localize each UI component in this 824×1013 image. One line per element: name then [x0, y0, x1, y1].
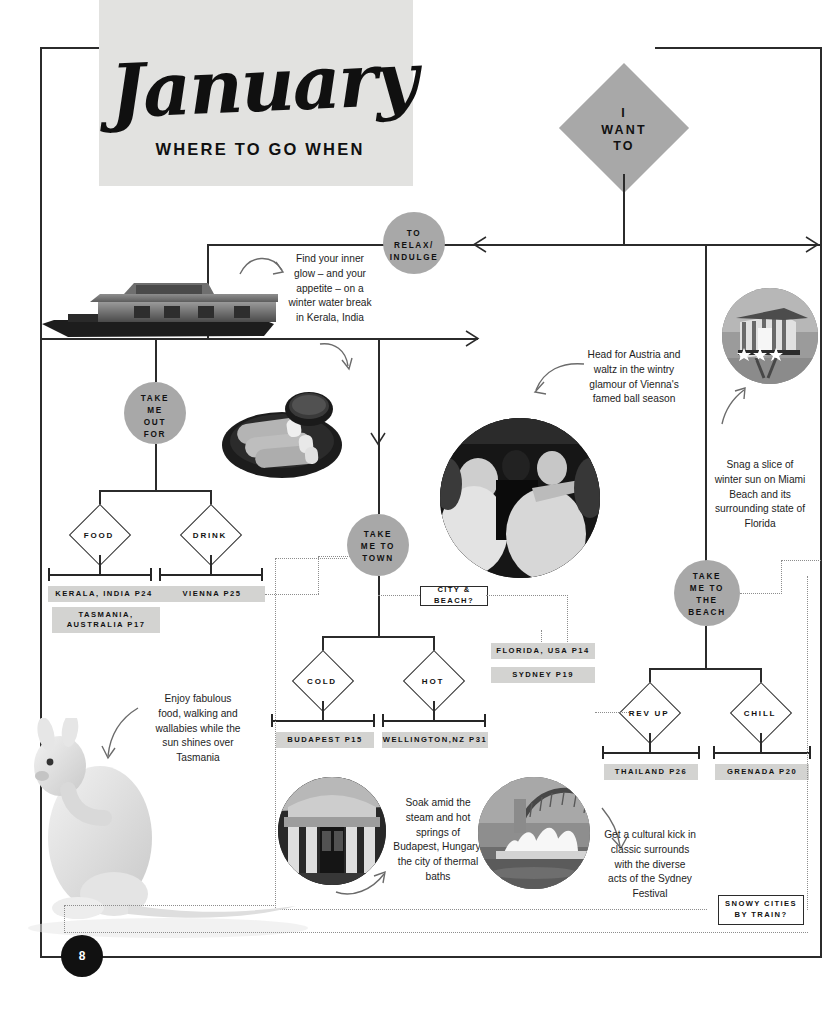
- revup-tbar-cap-right: [698, 746, 700, 759]
- revup-tbar-cap-left: [602, 746, 604, 759]
- hot-tbar-cap-right: [484, 714, 486, 727]
- food-tbar: [48, 574, 152, 576]
- node-take-me-to-town-label: TAKE ME TO TOWN: [345, 529, 411, 565]
- food-tbar-cap-left: [48, 568, 50, 581]
- vienna-ball-dancers-photo: [440, 418, 600, 578]
- dotted-citybeach-right: [486, 595, 568, 596]
- food-stem: [99, 555, 101, 575]
- node-take-me-out-for-label: TAKE ME OUT FOR: [122, 393, 188, 441]
- spine-second-arrow-right: [462, 330, 482, 348]
- dotted-beach-right-up: [781, 560, 782, 594]
- town-label-line1: TAKE: [345, 529, 411, 541]
- hot-tbar-cap-left: [382, 714, 384, 727]
- kerala-houseboat-photo: [38, 280, 278, 342]
- dotted-vienna-up: [318, 556, 319, 594]
- root-node-label: I WANT TO: [576, 105, 672, 155]
- indian-food-plate-photo: [221, 383, 343, 481]
- callout-kerala: Find your inner glow – and your appetite…: [286, 252, 374, 326]
- tag-sydney[interactable]: SYDNEY P19: [491, 667, 595, 683]
- outfor-label-line1: TAKE: [122, 393, 188, 405]
- diamond-food-label: FOOD: [72, 531, 126, 540]
- spine-line-top: [207, 244, 822, 246]
- callout-tasmania: Enjoy fabulous food, walking and wallabi…: [152, 692, 244, 766]
- out-for-stem-bottom: [155, 444, 157, 490]
- diamond-cold-label: COLD: [295, 677, 349, 686]
- hot-tbar: [382, 720, 486, 722]
- question-city-and-beach[interactable]: CITY & BEACH?: [420, 586, 488, 606]
- drink-tbar: [159, 574, 263, 576]
- food-tbar-cap-right: [150, 568, 152, 581]
- page-border-top-right: [655, 47, 822, 49]
- dotted-sydney-to-revup: [595, 712, 629, 713]
- tag-tasmania-line1: TASMANIA,: [78, 610, 133, 620]
- dotted-bottom-left: [64, 905, 276, 906]
- diamond-hot-label: HOT: [406, 677, 460, 686]
- vienna-callout-arrow: [532, 360, 586, 400]
- dotted-vienna-right: [265, 594, 319, 595]
- dotted-bottom-outer: [64, 932, 808, 933]
- tag-thailand[interactable]: THAILAND P26: [604, 764, 698, 780]
- root-stem-line: [623, 174, 625, 244]
- tasmania-callout-arrow: [104, 706, 144, 762]
- kerala-to-town-arrow: [318, 340, 358, 376]
- dotted-bottom-long: [275, 909, 707, 910]
- root-label-line1: I: [576, 105, 672, 122]
- beach-label-line1: TAKE: [672, 571, 742, 583]
- revup-tbar: [602, 752, 700, 754]
- dotted-beach-top: [781, 560, 821, 561]
- out-for-split-bar: [99, 490, 211, 492]
- beach-label-line3: THE: [672, 595, 742, 607]
- miami-callout-arrow: [716, 386, 750, 428]
- tag-tasmania-line2: AUSTRALIA P17: [67, 620, 146, 630]
- town-split-bar: [322, 636, 434, 638]
- tag-florida[interactable]: FLORIDA, USA P14: [491, 643, 595, 659]
- tag-grenada[interactable]: GRENADA P20: [715, 764, 809, 780]
- revup-stem: [649, 733, 651, 753]
- root-label-line2: WANT: [576, 122, 672, 139]
- kerala-callout-arrow: [238, 252, 290, 288]
- out-for-stem-top: [155, 338, 157, 382]
- callout-sydney: Get a cultural kick in classic surrounds…: [604, 828, 696, 902]
- sydney-opera-house-photo: [478, 777, 590, 889]
- drink-stem: [210, 555, 212, 575]
- page-border-right: [820, 47, 822, 957]
- tag-wellington[interactable]: WELLINGTON,NZ P31: [382, 732, 488, 748]
- tag-vienna[interactable]: VIENNA P25: [159, 586, 265, 602]
- miami-lifeguard-tower-photo: [722, 288, 818, 384]
- outfor-label-line4: FOR: [122, 429, 188, 441]
- question-snowy-cities[interactable]: SNOWY CITIES BY TRAIN?: [718, 895, 804, 925]
- snowy-line1: SNOWY CITIES: [725, 899, 797, 910]
- magazine-page: January WHERE TO GO WHEN I WANT TO TO RE…: [0, 0, 824, 1013]
- town-stem-arrow: [370, 428, 388, 448]
- chill-stem: [760, 733, 762, 753]
- page-subtitle: WHERE TO GO WHEN: [110, 140, 410, 159]
- beach-label-line4: BEACH: [672, 607, 742, 619]
- beach-stem-top: [705, 244, 707, 574]
- root-label-line3: TO: [576, 138, 672, 155]
- callout-budapest: Soak amid the steam and hot springs of B…: [392, 796, 484, 885]
- tag-tasmania[interactable]: TASMANIA, AUSTRALIA P17: [52, 607, 160, 633]
- relax-label-line2: RELAX/: [381, 240, 447, 252]
- snowy-line2: BY TRAIN?: [735, 910, 788, 921]
- outfor-label-line2: ME: [122, 405, 188, 417]
- page-title: January: [109, 41, 412, 128]
- drink-tbar-cap-right: [261, 568, 263, 581]
- dotted-town-to-citybeach: [378, 595, 420, 596]
- relax-label-line3: INDULGE: [381, 252, 447, 264]
- relax-label-line1: TO: [381, 228, 447, 240]
- page-number-badge: 8: [61, 935, 103, 977]
- beach-label-line2: ME TO: [672, 583, 742, 595]
- diamond-drink-label: DRINK: [183, 531, 237, 540]
- page-border-bottom: [40, 956, 822, 958]
- town-label-line2: ME TO: [345, 541, 411, 553]
- cold-tbar-cap-right: [373, 714, 375, 727]
- chill-tbar: [713, 752, 811, 754]
- dotted-right-edge-down: [807, 576, 808, 910]
- tag-kerala[interactable]: KERALA, INDIA P24: [48, 586, 160, 602]
- callout-miami: Snag a slice of winter sun on Miami Beac…: [712, 458, 808, 532]
- spine-arrow-right: [800, 236, 822, 254]
- chill-tbar-cap-left: [713, 746, 715, 759]
- chill-tbar-cap-right: [809, 746, 811, 759]
- beach-stem-bottom: [705, 626, 707, 670]
- cold-stem: [322, 701, 324, 721]
